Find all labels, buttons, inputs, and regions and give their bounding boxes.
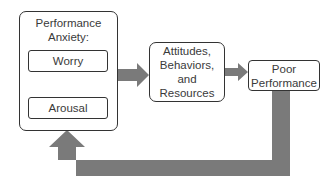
arrow-middle-to-outcome bbox=[224, 63, 248, 81]
outcome-line-1: Poor bbox=[272, 62, 296, 76]
title-line-2: Anxiety: bbox=[20, 30, 117, 44]
middle-line-1: Attitudes, bbox=[163, 44, 211, 58]
outcome-line-2: Performance bbox=[251, 76, 317, 90]
worry-label: Worry bbox=[53, 54, 83, 68]
arousal-box: Arousal bbox=[28, 97, 108, 119]
middle-line-4: Resources bbox=[160, 86, 215, 100]
arrow-anxiety-to-middle bbox=[117, 63, 149, 87]
performance-anxiety-title: Performance Anxiety: bbox=[20, 16, 117, 44]
title-line-1: Performance bbox=[20, 16, 117, 30]
middle-line-2: Behaviors, bbox=[160, 58, 214, 72]
arousal-label: Arousal bbox=[49, 101, 88, 115]
worry-box: Worry bbox=[28, 50, 108, 72]
middle-line-3: and bbox=[177, 72, 196, 86]
poor-performance-box: Poor Performance bbox=[248, 60, 320, 91]
attitudes-behaviors-resources-box: Attitudes, Behaviors, and Resources bbox=[149, 42, 225, 102]
